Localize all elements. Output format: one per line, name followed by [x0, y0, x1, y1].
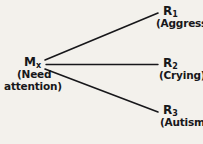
response-node-2-description: (Crying) [159, 70, 203, 81]
branching-diagram: Mx (Need attention) R1 (Aggression) R2 (… [0, 0, 203, 144]
source-node-description-line2: attention) [4, 81, 62, 92]
response-node-3-description: (Autism) [160, 117, 203, 128]
response-node-2-code: R2 [163, 57, 178, 69]
response-node-3-symbol: R [163, 103, 172, 117]
response-node-3-code: R3 [163, 104, 178, 116]
response-node-1-symbol: R [163, 4, 172, 18]
source-node-symbol: M [24, 55, 36, 69]
response-node-2-symbol: R [163, 56, 172, 70]
source-node-code: Mx [24, 56, 41, 68]
response-node-1-description: (Aggression) [156, 18, 203, 29]
edge-to-r3 [45, 69, 158, 112]
edge-to-r1 [45, 13, 158, 60]
response-node-1-code: R1 [163, 5, 178, 17]
source-node-description-line1: (Need [17, 69, 51, 80]
